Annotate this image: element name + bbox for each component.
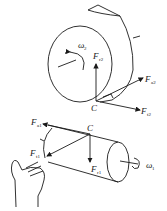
force-label-ft1: F t1 xyxy=(29,148,40,159)
svg-text:F: F xyxy=(90,164,97,174)
svg-text:F: F xyxy=(29,148,36,158)
svg-text:a1: a1 xyxy=(37,123,42,128)
svg-text:F: F xyxy=(140,106,147,116)
left-hand-rule-icon xyxy=(11,160,44,207)
svg-text:F: F xyxy=(30,117,37,127)
svg-text:F: F xyxy=(92,51,99,61)
force-label-fa2: F a2 xyxy=(144,74,156,85)
omega-1-label: ω 1 xyxy=(146,160,155,171)
svg-text:r2: r2 xyxy=(99,57,104,62)
svg-text:t2: t2 xyxy=(147,112,151,117)
omega-2-label: ω 2 xyxy=(78,40,87,51)
contact-point-c-gear1: C xyxy=(87,123,94,133)
svg-text:a2: a2 xyxy=(151,80,156,85)
svg-text:t1: t1 xyxy=(36,154,40,159)
svg-text:r1: r1 xyxy=(97,170,102,175)
gear-force-diagram: ω 2 F r2 F a2 F t2 C F a1 F t1 F r1 C ω … xyxy=(0,0,167,211)
force-label-fr1: F r1 xyxy=(90,164,102,175)
force-label-fr2: F r2 xyxy=(92,51,104,62)
force-label-ft2: F t2 xyxy=(140,106,151,117)
force-label-fa1: F a1 xyxy=(30,117,42,128)
contact-point-c-gear2: C xyxy=(91,103,98,113)
svg-text:1: 1 xyxy=(152,166,155,171)
svg-text:F: F xyxy=(144,74,151,84)
svg-text:2: 2 xyxy=(84,46,87,51)
